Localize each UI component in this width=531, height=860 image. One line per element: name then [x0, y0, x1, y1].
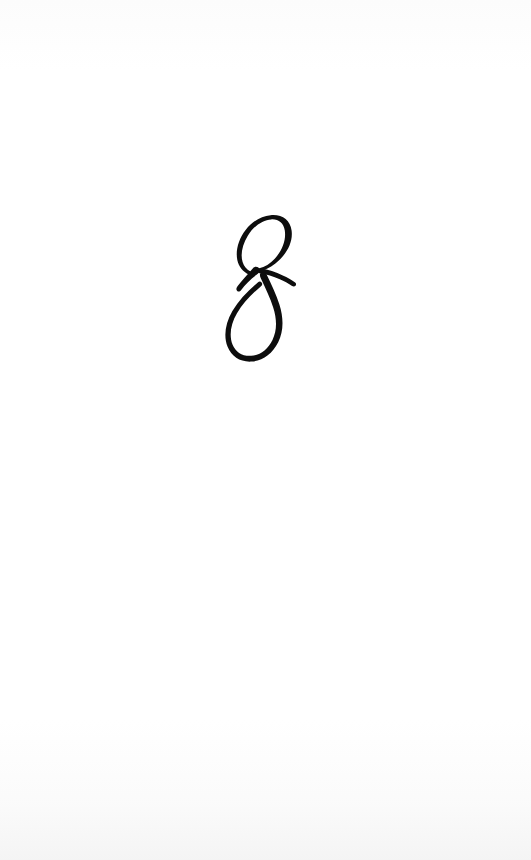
scan-shading-top	[0, 0, 531, 70]
numeral-eight-ornamental-icon	[223, 212, 309, 376]
chapter-opener-page: 8	[0, 0, 531, 860]
scan-shading-bottom	[0, 720, 531, 860]
chapter-number: 8	[0, 212, 531, 376]
